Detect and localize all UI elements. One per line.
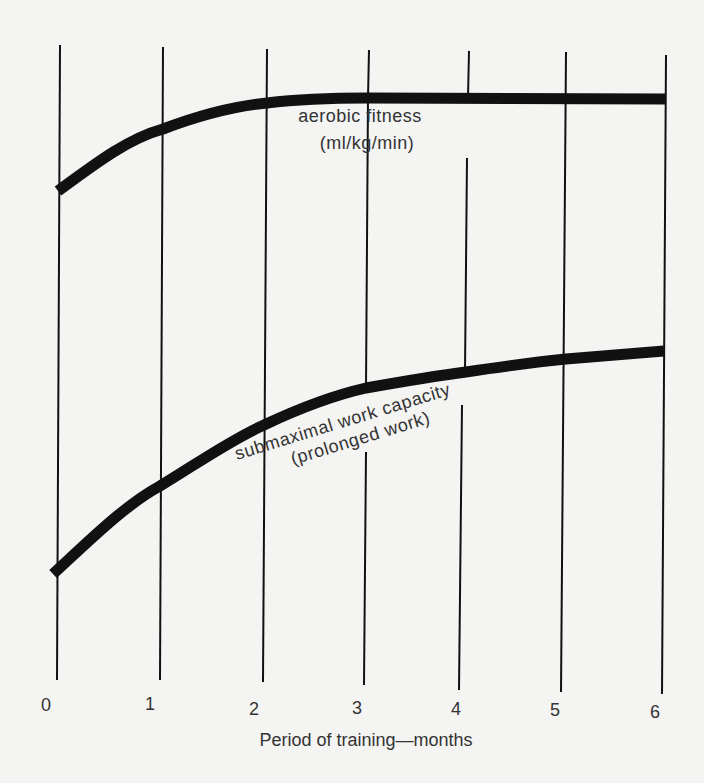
tick-label-2: 2: [249, 699, 259, 719]
tick-label-0: 0: [41, 695, 51, 715]
tick-label-6: 6: [650, 702, 660, 722]
tick-label-5: 5: [550, 700, 560, 720]
gridline-month-2: [263, 49, 267, 682]
gridline-month-1: [160, 47, 163, 680]
gridline-month-4-top: [468, 51, 469, 98]
aerobic-label-line1: aerobic fitness: [298, 106, 422, 126]
submaximal-work-curve: [53, 351, 664, 574]
tick-label-3: 3: [352, 698, 362, 718]
training-chart: aerobic fitness (ml/kg/min) submaximal w…: [0, 0, 704, 783]
gridline-month-4-bot: [459, 405, 462, 690]
tick-label-1: 1: [145, 694, 155, 714]
gridline-month-6: [662, 55, 666, 694]
gridline-month-5: [561, 52, 566, 692]
aerobic-label-line2: (ml/kg/min): [320, 133, 415, 153]
tick-label-4: 4: [451, 699, 461, 719]
x-axis-title: Period of training—months: [259, 730, 472, 750]
gridline-month-3-top: [368, 50, 369, 98]
gridline-month-3-bot: [364, 452, 366, 685]
gridline-month-0: [57, 45, 60, 680]
aerobic-fitness-label: aerobic fitness (ml/kg/min): [298, 106, 422, 153]
gridline-month-4-mid-a: [465, 158, 467, 372]
x-axis-ticks: 0 1 2 3 4 5 6: [41, 694, 660, 722]
